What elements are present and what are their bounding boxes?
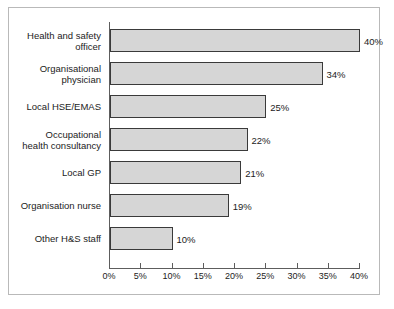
bar-value-label: 40% bbox=[364, 35, 383, 46]
bar bbox=[110, 29, 360, 52]
x-axis-tick bbox=[140, 263, 141, 268]
bar-row: Organisation nurse19% bbox=[9, 194, 379, 217]
x-axis-tick bbox=[297, 263, 298, 268]
category-label: Local HSE/EMAS bbox=[0, 101, 101, 113]
x-axis-line bbox=[109, 268, 360, 269]
x-axis-tick-label: 35% bbox=[319, 271, 337, 281]
bar bbox=[110, 227, 173, 250]
bar-row: Local HSE/EMAS25% bbox=[9, 95, 379, 118]
x-axis-tick bbox=[109, 263, 110, 268]
category-label: Occupational health consultancy bbox=[0, 128, 101, 151]
bar-value-label: 21% bbox=[245, 167, 264, 178]
x-axis-tick-label: 0% bbox=[102, 271, 115, 281]
bar bbox=[110, 95, 266, 118]
x-axis-tick-label: 10% bbox=[162, 271, 180, 281]
bar-row: Organisational physician34% bbox=[9, 62, 379, 85]
bar-value-label: 34% bbox=[327, 68, 346, 79]
x-axis-tick-label: 25% bbox=[256, 271, 274, 281]
x-axis-tick-label: 20% bbox=[225, 271, 243, 281]
bar-value-label: 22% bbox=[252, 134, 271, 145]
bar bbox=[110, 128, 248, 151]
bar bbox=[110, 161, 241, 184]
bar-row: Health and safety officer40% bbox=[9, 29, 379, 52]
x-axis-tick bbox=[203, 263, 204, 268]
bar-row: Other H&S staff10% bbox=[9, 227, 379, 250]
category-label: Other H&S staff bbox=[0, 233, 101, 245]
x-axis-tick bbox=[265, 263, 266, 268]
category-label: Local GP bbox=[0, 167, 101, 179]
bar-chart-plot-area: 0%5%10%15%20%25%30%35%40% Health and saf… bbox=[9, 8, 379, 294]
x-axis-tick bbox=[172, 263, 173, 268]
x-axis-tick-label: 40% bbox=[350, 271, 368, 281]
x-axis-tick-label: 30% bbox=[287, 271, 305, 281]
category-label: Organisational physician bbox=[0, 62, 101, 85]
bar-value-label: 25% bbox=[270, 101, 289, 112]
x-axis-tick bbox=[234, 263, 235, 268]
chart-frame: 0%5%10%15%20%25%30%35%40% Health and saf… bbox=[8, 7, 380, 295]
category-label: Organisation nurse bbox=[0, 200, 101, 212]
bar-row: Occupational health consultancy22% bbox=[9, 128, 379, 151]
x-axis-tick-label: 5% bbox=[134, 271, 147, 281]
x-axis-tick bbox=[359, 263, 360, 268]
category-label: Health and safety officer bbox=[0, 29, 101, 52]
x-axis-tick bbox=[328, 263, 329, 268]
bar-value-label: 19% bbox=[233, 200, 252, 211]
bar bbox=[110, 194, 229, 217]
bar-row: Local GP21% bbox=[9, 161, 379, 184]
bar bbox=[110, 62, 323, 85]
bar-value-label: 10% bbox=[177, 233, 196, 244]
x-axis-tick-label: 15% bbox=[194, 271, 212, 281]
